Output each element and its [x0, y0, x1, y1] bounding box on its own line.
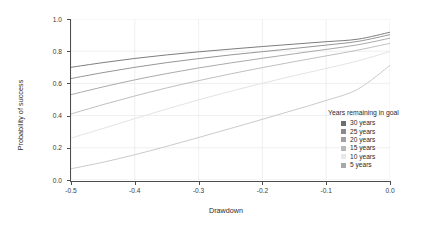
x-tick-label: 0.0: [370, 187, 410, 195]
series-line: [71, 38, 390, 95]
legend-item[interactable]: 15 years: [328, 144, 420, 152]
legend: Years remaining in goal 30 years25 years…: [328, 108, 420, 169]
y-axis-line: [70, 19, 71, 181]
series-line: [71, 32, 390, 67]
x-tick-label: -0.1: [306, 187, 346, 195]
legend-swatch-icon: [341, 146, 346, 151]
x-tick-label: -0.5: [51, 187, 91, 195]
y-tick-mark: [67, 51, 70, 52]
x-axis-line: [70, 181, 391, 182]
y-tick-label: 0.6: [10, 80, 62, 87]
series-line: [71, 35, 390, 79]
y-tick-mark: [67, 83, 70, 84]
legend-swatch-icon: [341, 121, 346, 126]
y-tick-label: 0.8: [10, 48, 62, 55]
legend-swatch-icon: [341, 129, 346, 134]
legend-swatch-icon: [341, 154, 346, 159]
x-tick-mark: [71, 182, 72, 185]
legend-item[interactable]: 5 years: [328, 161, 420, 169]
y-tick-mark: [67, 19, 70, 20]
legend-item[interactable]: 10 years: [328, 153, 420, 161]
x-tick-label: -0.2: [242, 187, 282, 195]
y-tick-label: 0.0: [10, 177, 62, 184]
legend-item-label: 30 years: [350, 119, 375, 127]
y-tick-mark: [67, 148, 70, 149]
x-tick-mark: [135, 182, 136, 185]
legend-swatch-icon: [341, 163, 346, 168]
chart-figure: Probability of success Drawdown 0.00.20.…: [0, 0, 421, 230]
legend-item[interactable]: 25 years: [328, 127, 420, 135]
series-line: [71, 43, 390, 114]
x-tick-label: -0.3: [179, 187, 219, 195]
legend-items: 30 years25 years20 years15 years10 years…: [328, 119, 420, 169]
legend-item[interactable]: 20 years: [328, 136, 420, 144]
y-tick-label: 0.4: [10, 112, 62, 119]
legend-item-label: 10 years: [350, 153, 375, 161]
x-tick-label: -0.4: [115, 187, 155, 195]
x-tick-mark: [390, 182, 391, 185]
y-tick-mark: [67, 116, 70, 117]
x-tick-mark: [262, 182, 263, 185]
x-axis-title: Drawdown: [60, 206, 392, 216]
x-tick-mark: [326, 182, 327, 185]
x-tick-mark: [199, 182, 200, 185]
legend-item-label: 25 years: [350, 128, 375, 136]
y-tick-mark: [67, 180, 70, 181]
legend-item-label: 15 years: [350, 144, 375, 152]
y-tick-label: 1.0: [10, 16, 62, 23]
y-tick-label: 0.2: [10, 144, 62, 151]
legend-swatch-icon: [341, 137, 346, 142]
legend-item-label: 20 years: [350, 136, 375, 144]
legend-item[interactable]: 30 years: [328, 119, 420, 127]
legend-item-label: 5 years: [350, 161, 372, 169]
legend-title: Years remaining in goal: [328, 108, 420, 117]
